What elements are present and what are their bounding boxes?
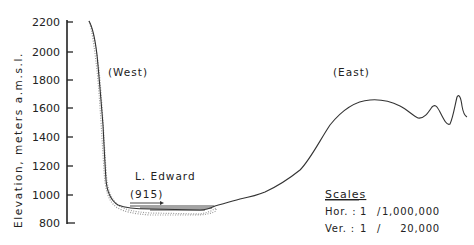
profile-stipple-shading	[89, 21, 216, 215]
scales-hor-label: Hor. :	[325, 206, 356, 217]
tick-label-1000: 1000	[32, 189, 60, 202]
y-axis-tick-labels: 2200 2000 1800 1600 1400 1200 1000 800	[32, 16, 60, 230]
scales-legend: Scales Hor. : 1 / 1,000,000 Ver. : 1 / 2…	[325, 188, 440, 234]
scales-hor-value: 1,000,000	[382, 206, 440, 217]
lake-name-label: L. Edward	[135, 170, 196, 182]
scales-hor-num: 1	[360, 206, 367, 217]
tick-label-2000: 2000	[32, 46, 60, 59]
lake-level-arrow-icon	[160, 201, 164, 205]
y-axis-ticks	[67, 22, 75, 223]
tick-label-800: 800	[39, 217, 60, 230]
scales-ver-num: 1	[360, 223, 367, 234]
scales-ver-sep: /	[377, 223, 381, 234]
elevation-profile-chart: Elevation, meters a.m.s.l. 2200 2000 180…	[0, 0, 474, 245]
east-label: (East)	[333, 66, 370, 78]
y-axis-label: Elevation, meters a.m.s.l.	[12, 52, 24, 228]
scales-ver-label: Ver. :	[325, 223, 355, 234]
tick-label-1400: 1400	[32, 131, 60, 144]
scales-title: Scales	[325, 188, 366, 201]
lake-elevation-label: (915)	[130, 188, 163, 200]
west-label: (West)	[108, 66, 148, 78]
tick-label-1600: 1600	[32, 102, 60, 115]
tick-label-2200: 2200	[32, 16, 60, 29]
tick-label-1800: 1800	[32, 74, 60, 87]
scales-ver-value: 20,000	[400, 223, 440, 234]
tick-label-1200: 1200	[32, 160, 60, 173]
scales-hor-sep: /	[377, 206, 381, 217]
